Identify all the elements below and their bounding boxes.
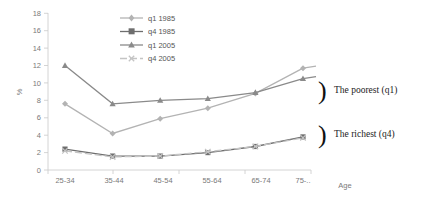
chart-canvas: 0 2 4 6 8 10 12 14 16 18 % (0, 0, 436, 201)
y-tick-label: 16 (33, 26, 41, 35)
legend-item-q1-2005[interactable]: q1 2005 (120, 41, 175, 50)
legend-item-q4-2005[interactable]: q4 2005 (120, 54, 175, 63)
diamond-marker-icon (62, 101, 68, 107)
series-line (65, 137, 303, 156)
square-marker-icon (300, 134, 305, 139)
diamond-marker-icon (110, 130, 116, 136)
series-line (65, 66, 303, 104)
y-axis-ticks: 0 2 4 6 8 10 12 14 16 18 (33, 9, 48, 175)
annotation-label: The poorest (q1) (334, 85, 397, 96)
triangle-marker-icon (62, 62, 68, 68)
square-marker-icon (129, 28, 135, 34)
line-chart: 0 2 4 6 8 10 12 14 16 18 % (0, 0, 436, 201)
y-axis-title: % (15, 88, 24, 95)
x-tick-label: 45-54 (153, 176, 172, 185)
y-tick-label: 2 (37, 148, 41, 157)
x-tick-label: 75-.. (295, 176, 310, 185)
y-tick-label: 4 (37, 131, 41, 140)
diamond-marker-icon (129, 15, 135, 22)
annotation-connector (303, 77, 316, 79)
legend: q1 1985 q4 1985 q1 2005 q4 2005 (120, 14, 175, 64)
y-tick-label: 8 (37, 96, 41, 105)
legend-label: q1 1985 (148, 14, 175, 23)
y-tick-label: 6 (37, 113, 41, 122)
y-tick-label: 12 (33, 61, 41, 70)
legend-item-q1-1985[interactable]: q1 1985 (120, 14, 175, 23)
x-tick-label: 55-64 (202, 176, 221, 185)
x-tick-label: 35-44 (104, 176, 123, 185)
series-line (65, 68, 303, 133)
x-axis-ticks: 25-34 35-44 45-54 55-64 65-74 75-.. (48, 170, 311, 185)
diamond-marker-icon (157, 116, 163, 122)
y-tick-label: 14 (33, 44, 41, 53)
brace-icon: ) (318, 120, 327, 149)
legend-label: q1 2005 (148, 41, 175, 50)
series-layer (62, 62, 316, 159)
x-axis-title: Age (338, 181, 351, 190)
y-tick-label: 18 (33, 9, 41, 18)
y-tick-label: 10 (33, 79, 41, 88)
series-q1-2005 (62, 62, 306, 106)
y-tick-label: 0 (37, 166, 41, 175)
annotation-richest: ) The richest (q4) (318, 120, 395, 149)
brace-icon: ) (318, 76, 327, 105)
annotation-poorest: ) The poorest (q1) (318, 76, 397, 105)
square-marker-icon (205, 150, 210, 155)
diamond-marker-icon (205, 105, 211, 111)
series-q1-1985 (62, 65, 306, 136)
series-q4-2005 (62, 135, 306, 160)
legend-label: q4 2005 (148, 54, 175, 63)
annotation-label: The richest (q4) (334, 129, 395, 140)
legend-item-q4-1985[interactable]: q4 1985 (120, 27, 175, 36)
x-tick-label: 65-74 (251, 176, 270, 185)
legend-label: q4 1985 (148, 27, 175, 36)
x-tick-label: 25-34 (55, 176, 74, 185)
